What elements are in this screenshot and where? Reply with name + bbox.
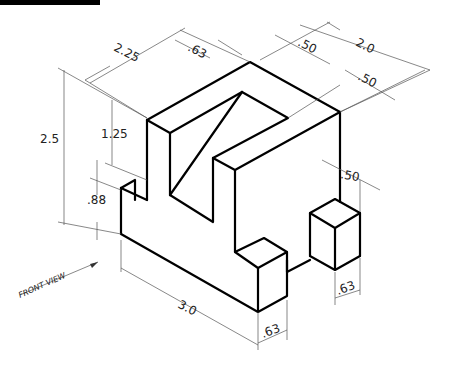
dim-label-upright-height: 1.25 (101, 127, 128, 141)
dim-label-slot: .63 (186, 40, 209, 61)
dim-label-top-c: .50 (356, 69, 379, 90)
object-outline (121, 62, 360, 312)
front-view-label: FRONT VIEW (17, 271, 68, 300)
isometric-drawing: 2.25 .63 .50 2.0 .50 2.5 1.25 .88 .50 3.… (0, 0, 449, 370)
dim-label-right-cube: .63 (334, 278, 357, 298)
dim-label-base-height: .88 (87, 193, 106, 207)
dim-label-2-25: 2.25 (112, 40, 142, 65)
dim-label-overall-height: 2.5 (40, 132, 59, 146)
dim-label-right-offset: .50 (339, 167, 360, 184)
dim-label-top-b: 2.0 (354, 35, 377, 56)
dimension-lines (20, 22, 430, 350)
dim-label-front-cube: .63 (259, 321, 282, 341)
dimension-labels: 2.25 .63 .50 2.0 .50 2.5 1.25 .88 .50 3.… (17, 35, 379, 341)
